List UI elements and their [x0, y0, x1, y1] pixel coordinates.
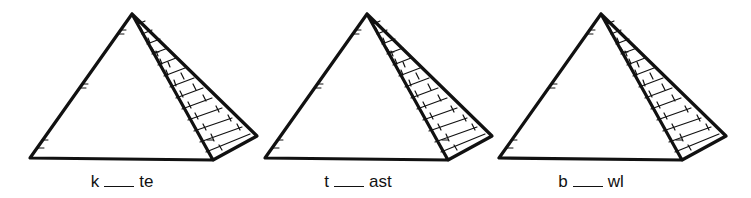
letter-blank-input[interactable] — [334, 185, 364, 187]
pyramid-card-3: bwl — [469, 0, 729, 198]
word-suffix: te — [139, 172, 153, 191]
word-prefix: k — [91, 172, 100, 191]
word-blank-3: bwl — [461, 172, 721, 192]
letter-blank-input[interactable] — [104, 185, 134, 187]
word-suffix: wl — [608, 172, 624, 191]
pyramid-icon — [235, 0, 495, 170]
pyramid-card-2: tast — [235, 0, 495, 198]
letter-blank-input[interactable] — [573, 185, 603, 187]
pyramid-icon — [469, 0, 729, 170]
word-suffix: ast — [369, 172, 392, 191]
pyramid-worksheet: kte — [0, 0, 751, 198]
word-blank-1: kte — [0, 172, 252, 192]
word-blank-2: tast — [228, 172, 488, 192]
pyramid-card-1: kte — [0, 0, 260, 198]
word-prefix: t — [324, 172, 329, 191]
word-prefix: b — [558, 172, 567, 191]
pyramid-icon — [0, 0, 260, 170]
